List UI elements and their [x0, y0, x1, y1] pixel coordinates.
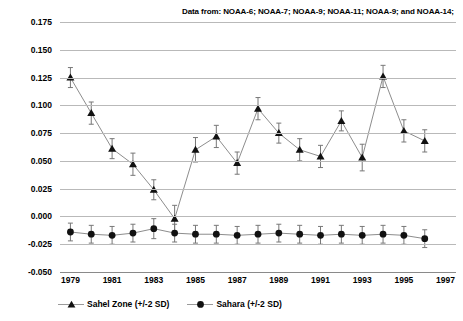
gridline	[60, 105, 456, 106]
triangle-marker-icon	[421, 137, 429, 144]
legend-item-sahel-zone[interactable]: Sahel Zone (+/-2 SD)	[58, 299, 169, 309]
triangle-marker-icon	[296, 146, 304, 153]
x-tick-label: 1985	[186, 275, 205, 285]
circle-marker-icon	[296, 231, 303, 238]
y-tick-label: 0.175	[31, 17, 52, 27]
gridline	[60, 133, 456, 134]
circle-marker-icon	[234, 232, 241, 239]
gridline	[60, 50, 456, 51]
x-axis-tick-labels: 1979198119831985198719891991199319951997	[60, 275, 456, 289]
y-tick-label: 0.100	[31, 100, 52, 110]
y-tick-label: 0.150	[31, 45, 52, 55]
x-tick-label: 1991	[311, 275, 330, 285]
legend-swatch	[187, 299, 213, 309]
triangle-marker-icon	[337, 117, 345, 124]
plot-series-svg	[60, 22, 456, 272]
x-tick-label: 1997	[436, 275, 455, 285]
x-tick-label: 1993	[353, 275, 372, 285]
gridline	[60, 272, 456, 273]
x-tick-label: 1983	[144, 275, 163, 285]
x-tick-label: 1979	[61, 275, 80, 285]
series-sahel-zone	[66, 65, 428, 232]
triangle-marker-icon	[67, 300, 76, 309]
circle-marker-icon	[196, 300, 205, 309]
circle-marker-icon	[338, 231, 345, 238]
y-tick-label: -0.025	[28, 239, 52, 249]
circle-marker-icon	[275, 230, 282, 237]
legend-item-sahara[interactable]: Sahara (+/-2 SD)	[187, 299, 281, 309]
y-tick-label: 0.025	[31, 184, 52, 194]
plot-area	[60, 22, 456, 272]
circle-marker-icon	[67, 229, 74, 236]
data-source-caption: Data from: NOAA-6; NOAA-7; NOAA-9; NOAA-…	[182, 7, 454, 16]
y-axis-tick-labels: 0.1750.1500.1250.1000.0750.0500.0250.000…	[0, 22, 56, 272]
triangle-marker-icon	[358, 154, 366, 161]
circle-marker-icon	[255, 231, 262, 238]
series-line	[70, 229, 424, 239]
circle-marker-icon	[421, 235, 428, 242]
chart-legend: Sahel Zone (+/-2 SD)Sahara (+/-2 SD)	[58, 299, 282, 309]
gridline	[60, 189, 456, 190]
y-tick-label: 0.000	[31, 211, 52, 221]
circle-marker-icon	[109, 232, 116, 239]
circle-marker-icon	[130, 230, 137, 237]
legend-label: Sahara (+/-2 SD)	[216, 299, 281, 309]
gridline	[60, 22, 456, 23]
series-line	[70, 76, 424, 218]
y-tick-label: -0.050	[28, 267, 52, 277]
x-tick-label: 1987	[228, 275, 247, 285]
triangle-marker-icon	[191, 146, 199, 153]
x-tick-label: 1981	[103, 275, 122, 285]
gridline	[60, 244, 456, 245]
circle-marker-icon	[171, 230, 178, 237]
y-tick-label: 0.125	[31, 73, 52, 83]
triangle-marker-icon	[87, 109, 95, 116]
ndvi-time-series-chart: Data from: NOAA-6; NOAA-7; NOAA-9; NOAA-…	[0, 0, 463, 321]
circle-marker-icon	[150, 225, 157, 232]
circle-marker-icon	[380, 231, 387, 238]
legend-swatch	[58, 299, 84, 309]
circle-marker-icon	[359, 232, 366, 239]
legend-label: Sahel Zone (+/-2 SD)	[87, 299, 169, 309]
circle-marker-icon	[88, 231, 95, 238]
circle-marker-icon	[213, 231, 220, 238]
gridline	[60, 161, 456, 162]
y-tick-label: 0.050	[31, 156, 52, 166]
x-tick-label: 1989	[269, 275, 288, 285]
circle-marker-icon	[400, 232, 407, 239]
circle-marker-icon	[317, 232, 324, 239]
gridline	[60, 78, 456, 79]
y-tick-label: 0.075	[31, 128, 52, 138]
circle-marker-icon	[192, 231, 199, 238]
triangle-marker-icon	[108, 145, 116, 152]
x-tick-label: 1995	[394, 275, 413, 285]
gridline	[60, 216, 456, 217]
series-sahara	[67, 219, 428, 248]
